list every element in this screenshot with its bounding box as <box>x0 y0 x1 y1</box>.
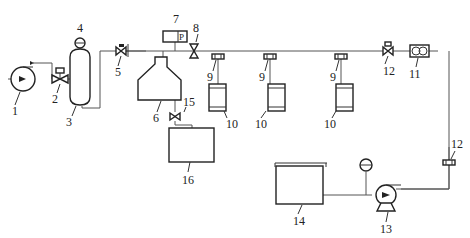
tank-16: 16 <box>169 128 214 187</box>
valve-2: 2 <box>52 68 68 106</box>
label-14: 14 <box>293 214 305 228</box>
label-3: 3 <box>66 115 72 129</box>
valve-9-c: 9 <box>330 54 347 84</box>
label-12b: 12 <box>451 137 463 151</box>
canister-10-c: 10 <box>324 84 353 131</box>
label-6: 6 <box>153 111 159 125</box>
label-11: 11 <box>409 67 421 81</box>
pressure-gauge-4: 4 <box>75 21 85 49</box>
canister-10-a: 10 <box>209 84 238 131</box>
valve-5: 5 <box>115 44 128 79</box>
valve-12-a: 12 <box>383 42 395 78</box>
pressure-gauge-13 <box>360 159 372 171</box>
valve-12-b: 12 <box>443 137 463 165</box>
label-5: 5 <box>115 65 121 79</box>
tank-14: 14 <box>275 163 327 228</box>
pump-1: 1 <box>11 61 35 118</box>
valve-8: 8 <box>190 21 199 58</box>
label-1: 1 <box>12 104 18 118</box>
label-9c: 9 <box>330 70 336 84</box>
vessel-3: 3 <box>66 49 90 129</box>
label-9a: 9 <box>207 70 213 84</box>
label-15: 15 <box>183 95 195 109</box>
label-2: 2 <box>52 92 58 106</box>
label-8: 8 <box>193 21 199 35</box>
label-9b: 9 <box>259 70 265 84</box>
label-7: 7 <box>173 12 179 26</box>
pump-13: 13 <box>376 185 401 236</box>
valve-9-a: 9 <box>207 54 224 84</box>
label-16: 16 <box>182 173 194 187</box>
label-10b: 10 <box>255 117 267 131</box>
label-7-symbol: P <box>179 32 184 42</box>
label-12a: 12 <box>383 64 395 78</box>
flow-meter-11: 11 <box>409 45 429 81</box>
label-13: 13 <box>380 222 392 236</box>
label-10a: 10 <box>226 117 238 131</box>
diagram-svg: 1 2 3 4 5 6 P 7 <box>0 0 470 238</box>
canister-10-b: 10 <box>255 84 285 131</box>
label-4: 4 <box>77 21 83 35</box>
valve-9-b: 9 <box>259 54 276 84</box>
hopper-tank-6: 6 <box>138 57 181 125</box>
label-10c: 10 <box>324 117 336 131</box>
pressure-sensor-7: P 7 <box>163 12 187 42</box>
process-flow-diagram: 1 2 3 4 5 6 P 7 <box>0 0 470 238</box>
